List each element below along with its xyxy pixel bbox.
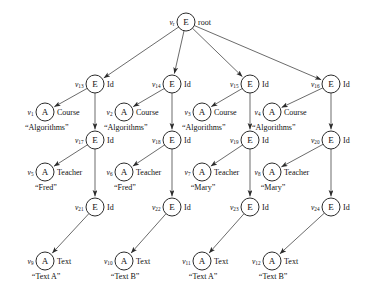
- node-value-label: “Algorithms”: [25, 123, 69, 132]
- edge-v17-v5: [54, 145, 88, 167]
- node-id-label: v18: [152, 136, 161, 145]
- node-tag-label: Id: [343, 136, 350, 145]
- attribute-node-glyph: A: [36, 252, 55, 271]
- edge-v23-v11: [209, 213, 244, 253]
- edge-v21-v9: [52, 213, 89, 253]
- element-node-glyph: E: [241, 131, 260, 150]
- element-node-glyph: E: [86, 75, 105, 94]
- node-v7[interactable]: Av7Teacher“Mary”: [193, 163, 212, 182]
- node-v10[interactable]: Av10Text“Text B”: [115, 252, 134, 271]
- node-v4[interactable]: Av4Course“Algorithms”: [263, 103, 282, 122]
- node-tag-label: Id: [343, 80, 350, 89]
- attribute-node-glyph: A: [193, 103, 212, 122]
- attribute-node-glyph: A: [115, 252, 134, 271]
- node-v14[interactable]: Ev14Id: [163, 75, 182, 94]
- node-id-label: v19: [230, 136, 239, 145]
- node-v16[interactable]: Ev16Id: [322, 75, 341, 94]
- node-value-label: “Text B”: [259, 272, 288, 281]
- node-id-label: v1: [28, 108, 34, 117]
- node-value-label: “Text A”: [189, 272, 218, 281]
- element-node-glyph: E: [86, 198, 105, 217]
- element-node-glyph: E: [177, 13, 196, 32]
- node-v13[interactable]: Ev13Id: [86, 75, 105, 94]
- node-id-label: v7: [185, 168, 191, 177]
- edge-v20-v8: [281, 144, 323, 167]
- node-tag-label: Text: [136, 257, 150, 266]
- element-node-glyph: E: [241, 75, 260, 94]
- node-id-label: v3: [185, 108, 191, 117]
- edge-v15-v3: [211, 88, 242, 106]
- attribute-node-glyph: A: [193, 163, 212, 182]
- node-v17[interactable]: Ev17Id: [86, 131, 105, 150]
- element-node-glyph: E: [322, 198, 341, 217]
- node-tag-label: Text: [57, 257, 71, 266]
- node-id-label: v16: [311, 80, 320, 89]
- node-v5[interactable]: Av5Teacher“Fred”: [36, 163, 55, 182]
- node-id-label: v21: [75, 203, 84, 212]
- edge-vr-v13: [104, 27, 179, 78]
- node-id-label: v11: [182, 257, 190, 266]
- attribute-node-glyph: A: [115, 103, 134, 122]
- node-id-label: v8: [255, 168, 261, 177]
- node-value-label: “Text A”: [32, 272, 61, 281]
- node-v15[interactable]: Ev15Id: [241, 75, 260, 94]
- node-v19[interactable]: Ev19Id: [241, 131, 260, 150]
- node-value-label: “Mary”: [261, 183, 285, 192]
- node-tag-label: Id: [107, 136, 114, 145]
- node-v20[interactable]: Ev20Id: [322, 131, 341, 150]
- node-v6[interactable]: Av6Teacher“Fred”: [115, 163, 134, 182]
- edge-v14-v2: [133, 88, 164, 106]
- attribute-node-glyph: A: [193, 252, 212, 271]
- node-tag-label: root: [198, 18, 211, 27]
- node-tag-label: Id: [107, 203, 114, 212]
- node-tag-label: Id: [184, 80, 191, 89]
- node-tag-label: Course: [136, 108, 159, 117]
- node-v21[interactable]: Ev21Id: [86, 198, 105, 217]
- node-v1[interactable]: Av1Course“Algorithms”: [36, 103, 55, 122]
- node-v23[interactable]: Ev23Id: [241, 198, 260, 217]
- element-node-glyph: E: [322, 131, 341, 150]
- attribute-node-glyph: A: [36, 163, 55, 182]
- attribute-node-glyph: A: [263, 103, 282, 122]
- node-tag-label: Teacher: [284, 168, 309, 177]
- node-v22[interactable]: Ev22Id: [163, 198, 182, 217]
- node-id-label: v6: [107, 168, 113, 177]
- node-tag-label: Id: [262, 203, 269, 212]
- node-id-label: v2: [107, 108, 113, 117]
- node-v18[interactable]: Ev18Id: [163, 131, 182, 150]
- element-node-glyph: E: [163, 198, 182, 217]
- node-tag-label: Id: [343, 203, 350, 212]
- node-id-label: v23: [230, 203, 239, 212]
- node-tag-label: Course: [214, 108, 237, 117]
- edge-v24-v12: [280, 213, 325, 254]
- node-v3[interactable]: Av3Course“Algorithms”: [193, 103, 212, 122]
- element-node-glyph: E: [163, 75, 182, 94]
- node-id-label: v13: [75, 80, 84, 89]
- attribute-node-glyph: A: [263, 163, 282, 182]
- edge-v22-v10: [131, 213, 166, 253]
- node-vr[interactable]: Evrroot: [177, 13, 196, 32]
- node-id-label: v12: [252, 257, 261, 266]
- node-v8[interactable]: Av8Teacher“Mary”: [263, 163, 282, 182]
- node-tag-label: Course: [284, 108, 307, 117]
- diagram-canvas: EvrrootEv13IdEv14IdEv15IdEv16IdAv1Course…: [0, 0, 372, 297]
- node-id-label: v15: [230, 80, 239, 89]
- node-v11[interactable]: Av11Text“Text A”: [193, 252, 212, 271]
- node-v9[interactable]: Av9Text“Text A”: [36, 252, 55, 271]
- node-tag-label: Id: [184, 136, 191, 145]
- node-value-label: “Fred”: [114, 183, 136, 192]
- attribute-node-glyph: A: [36, 103, 55, 122]
- node-id-label: v9: [28, 257, 34, 266]
- node-v24[interactable]: Ev24Id: [322, 198, 341, 217]
- node-tag-label: Id: [107, 80, 114, 89]
- attribute-node-glyph: A: [115, 163, 134, 182]
- edge-vr-v14: [174, 30, 184, 73]
- node-id-label: v24: [311, 203, 320, 212]
- node-id-label: v17: [75, 136, 84, 145]
- node-tag-label: Id: [184, 203, 191, 212]
- node-v2[interactable]: Av2Course“Algorithms”: [115, 103, 134, 122]
- node-tag-label: Teacher: [136, 168, 161, 177]
- element-node-glyph: E: [163, 131, 182, 150]
- element-node-glyph: E: [322, 75, 341, 94]
- node-v12[interactable]: Av12Text“Text B”: [263, 252, 282, 271]
